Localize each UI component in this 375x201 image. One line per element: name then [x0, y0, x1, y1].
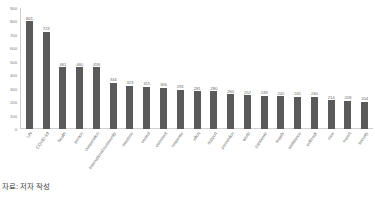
bar-rect[interactable] — [244, 95, 251, 129]
bar-value-label: 249 — [261, 90, 268, 95]
x-tick-label: security — [356, 131, 368, 146]
bar-item[interactable]: 204 — [356, 8, 373, 129]
bar-value-label: 260 — [227, 89, 234, 94]
bar-item[interactable]: 260 — [222, 8, 239, 129]
bar-rect[interactable] — [261, 96, 268, 129]
bar-item[interactable]: 723 — [38, 8, 55, 129]
bar-value-label: 315 — [143, 81, 150, 86]
bar-value-label: 280 — [210, 86, 217, 91]
bar-rect[interactable] — [177, 90, 184, 129]
x-tick-label: assistance — [286, 131, 301, 150]
bar-item[interactable]: 801 — [21, 8, 38, 129]
x-tick: care — [323, 130, 340, 176]
x-tick: outbreak — [306, 130, 323, 176]
bar-rect[interactable] — [126, 86, 133, 129]
bar-item[interactable]: 458 — [88, 8, 105, 129]
bar-value-label: 461 — [60, 62, 67, 67]
x-tick-label: response — [170, 131, 184, 148]
bar-value-label: 323 — [127, 80, 134, 85]
x-tick: control — [138, 130, 155, 176]
x-tick: health — [55, 130, 72, 176]
bar-rect[interactable] — [194, 91, 201, 129]
bar-item[interactable]: 461 — [55, 8, 72, 129]
x-tick-label: expert — [341, 131, 352, 143]
bar-rect[interactable] — [227, 94, 234, 129]
bar-rect[interactable] — [59, 67, 66, 129]
bar-item[interactable]: 291 — [172, 8, 189, 129]
y-tick-label: 0 — [15, 127, 17, 132]
x-tick: international community — [105, 130, 122, 176]
bar-value-label: 723 — [43, 26, 50, 31]
x-tick-label: prevention — [219, 131, 234, 150]
bar-rect[interactable] — [160, 88, 167, 129]
x-tick-label: person — [72, 131, 83, 144]
x-tick-label: control — [140, 131, 151, 144]
bar-item[interactable]: 280 — [205, 8, 222, 129]
bar-rect[interactable] — [26, 21, 33, 129]
bar-value-label: 460 — [76, 62, 83, 67]
y-tick-label: 500 — [10, 59, 17, 64]
bar-item[interactable]: 241 — [289, 8, 306, 129]
x-tick: world — [239, 130, 256, 176]
x-tick-label: COVID-19 — [35, 131, 50, 150]
bar-rect[interactable] — [76, 67, 83, 129]
bar-value-label: 252 — [244, 90, 251, 95]
bar-rect[interactable] — [277, 96, 284, 129]
x-tick-label: measure — [121, 131, 134, 147]
y-tick-label: 600 — [10, 46, 17, 51]
bar-item[interactable]: 281 — [189, 8, 206, 129]
bar-rect[interactable] — [311, 97, 318, 129]
y-tick-label: 200 — [10, 100, 17, 105]
bar-rect[interactable] — [210, 91, 217, 129]
bar-item[interactable]: 315 — [138, 8, 155, 129]
bar-value-label: 306 — [160, 82, 167, 87]
x-tick-label: health — [56, 131, 67, 143]
source-caption: 자료: 저자 작성 — [2, 180, 50, 191]
x-tick: effort — [189, 130, 206, 176]
bar-rect[interactable] — [43, 32, 50, 129]
bar-item[interactable]: 209 — [340, 8, 357, 129]
y-tick-label: 400 — [10, 73, 17, 78]
bar-item[interactable]: 242 — [272, 8, 289, 129]
x-tick: expert — [340, 130, 357, 176]
bar-series: 8017234614604583443233153062912812802602… — [21, 8, 373, 129]
y-tick-label: 700 — [10, 32, 17, 37]
y-tick-label: 300 — [10, 86, 17, 91]
bar-rect[interactable] — [361, 102, 368, 129]
bar-rect[interactable] — [344, 101, 351, 129]
y-tick-label: 100 — [10, 113, 17, 118]
x-tick-label: outbreak — [305, 131, 318, 147]
x-tick-label: pandemic — [254, 131, 269, 149]
x-axis: UNCOVID-19healthpersoncooperationinterna… — [21, 130, 373, 176]
bar-rect[interactable] — [143, 87, 150, 129]
bar-value-label: 291 — [177, 84, 184, 89]
x-tick: comment — [155, 130, 172, 176]
bar-item[interactable]: 249 — [256, 8, 273, 129]
bar-value-label: 241 — [294, 91, 301, 96]
bar-item[interactable]: 344 — [105, 8, 122, 129]
bar-rect[interactable] — [294, 97, 301, 129]
x-tick: assistance — [289, 130, 306, 176]
bar-value-label: 242 — [277, 91, 284, 96]
x-tick: person — [71, 130, 88, 176]
x-tick-label: supply — [274, 131, 285, 144]
y-tick-label: 800 — [10, 19, 17, 24]
bar-value-label: 801 — [26, 16, 33, 21]
bar-item[interactable]: 323 — [122, 8, 139, 129]
bar-rect[interactable] — [328, 100, 335, 129]
bar-value-label: 344 — [110, 77, 117, 82]
bar-rect[interactable] — [110, 83, 117, 129]
bar-item[interactable]: 240 — [306, 8, 323, 129]
chart-page: 9008007006005004003002001000 80172346146… — [0, 0, 375, 201]
x-tick: UN — [21, 130, 38, 176]
bar-value-label: 281 — [194, 86, 201, 91]
bar-value-label: 204 — [361, 96, 368, 101]
bar-item[interactable]: 460 — [71, 8, 88, 129]
x-tick-label: comment — [154, 131, 168, 148]
y-tick-label: 900 — [10, 6, 17, 11]
bar-item[interactable]: 252 — [239, 8, 256, 129]
bar-item[interactable]: 306 — [155, 8, 172, 129]
bar-value-label: 240 — [311, 91, 318, 96]
bar-item[interactable]: 214 — [323, 8, 340, 129]
bar-rect[interactable] — [93, 67, 100, 129]
